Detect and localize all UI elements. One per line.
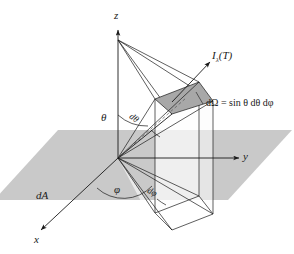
x-axis-label: x xyxy=(34,234,39,245)
y-axis-label: y xyxy=(243,151,248,162)
z-axis-label: z xyxy=(114,10,118,21)
figure-canvas xyxy=(0,0,294,254)
spectral-intensity-label: Iλ(T) xyxy=(212,50,232,64)
area-element-label: dA xyxy=(36,190,48,201)
radiation-geometry-figure: z y x θ φ dθ dφ dA Iλ(T) dΩ = sin θ dθ d… xyxy=(0,0,294,254)
intensity-argument: (T) xyxy=(219,49,232,61)
solid-angle-equation-label: dΩ = sin θ dθ dφ xyxy=(206,98,274,108)
theta-label: θ xyxy=(101,112,106,123)
phi-label: φ xyxy=(114,184,120,195)
